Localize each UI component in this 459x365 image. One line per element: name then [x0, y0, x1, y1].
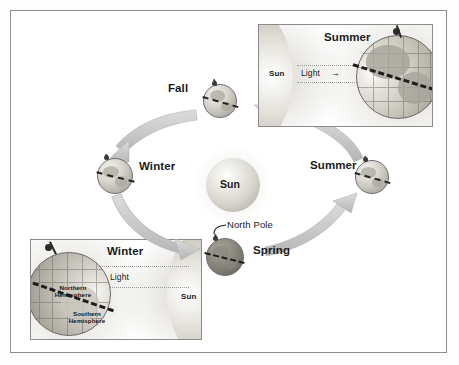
seasons-diagram: Sun Fall Winter Spring North Pole: [0, 0, 459, 365]
arrow-overlay-winter-inset: [0, 0, 459, 365]
